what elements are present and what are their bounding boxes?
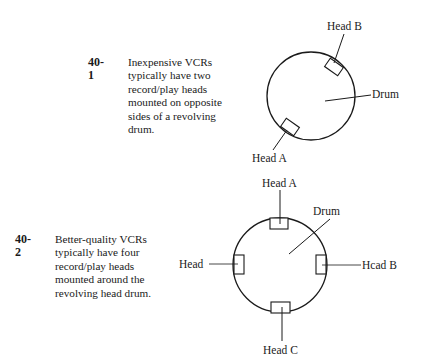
drum-circle (233, 218, 327, 312)
head-a-rect (281, 118, 300, 135)
head-b-leader (334, 34, 344, 63)
head-left-rect (234, 255, 244, 274)
head-left-label: Head (179, 258, 204, 270)
head-c-rect (271, 302, 290, 313)
head-a-label: Head A (252, 152, 288, 164)
drum-leader (325, 95, 371, 101)
head-b-rect (325, 58, 344, 75)
diagram-40-1: Head B Head A Drum (252, 20, 399, 164)
drum-label: Drum (313, 205, 340, 217)
drum-label: Drum (372, 88, 399, 100)
head-a-leader (273, 130, 287, 150)
head-b-label: Head B (327, 20, 362, 32)
head-a-rect (270, 218, 288, 229)
diagrams: Head B Head A Drum Head A Head Hcad B He… (0, 0, 421, 364)
head-b-label: Hcad B (362, 259, 397, 271)
diagram-40-2: Head A Head Hcad B Head C Drum (179, 177, 397, 356)
head-c-label: Head C (263, 344, 298, 356)
head-b-rect (316, 255, 326, 274)
head-a-label: Head A (262, 177, 298, 189)
